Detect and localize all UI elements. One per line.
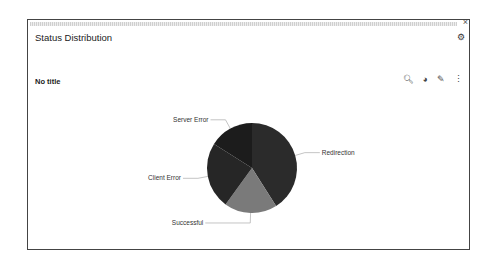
slice-label: Client Error	[148, 174, 182, 181]
slice-label: Redirection	[322, 149, 355, 156]
slice-label: Successful	[172, 219, 204, 226]
slice-label: Server Error	[173, 116, 209, 123]
pie-chart: RedirectionSuccessfulClient ErrorServer …	[0, 0, 495, 269]
